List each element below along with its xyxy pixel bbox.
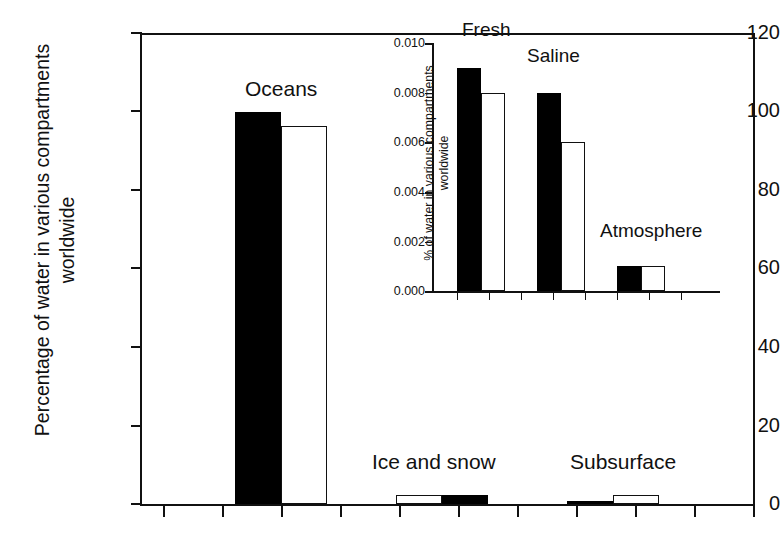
main-y-axis-label: Percentage of water in various compartme…	[30, 5, 80, 475]
inset-x-tick-1	[457, 293, 458, 300]
inset-x-tick-8	[681, 293, 682, 300]
main-x-tick-11	[753, 506, 755, 517]
main-y-tick-0	[131, 503, 142, 505]
main-x-tick-1	[163, 506, 165, 517]
main-x-axis-line	[140, 504, 755, 506]
main-x-tick-3	[281, 506, 283, 517]
inset-bar-atmosphere-filled	[617, 266, 641, 291]
inset-y-tick-0000	[425, 291, 433, 293]
inset-group-label-saline: Saline	[527, 45, 580, 66]
main-x-tick-8	[576, 506, 578, 517]
inset-x-tick-4	[553, 293, 554, 300]
inset-x-tick-5	[585, 293, 586, 300]
inset-group-label-atmosphere: Atmosphere	[600, 220, 702, 241]
main-y-tick-100	[131, 110, 142, 112]
group-label-subsurface: Subsurface	[570, 450, 676, 473]
bar-chart-figure: 120 100 80 60 40 20 0 Percentage of wate…	[0, 0, 780, 542]
inset-bar-saline-filled	[537, 93, 561, 291]
inset-x-tick-7	[649, 293, 650, 300]
main-x-tick-4	[340, 506, 342, 517]
inset-plot: 0.010 0.008 0.006 0.004 0.002 0.000 % of…	[432, 43, 720, 293]
inset-y-tick-label-0000: 0.000	[365, 285, 425, 298]
main-x-tick-2	[222, 506, 224, 517]
inset-y-axis-label: % of water in various compartments world…	[422, 38, 452, 288]
main-y-tick-label-40: 40	[734, 336, 780, 356]
main-y-tick-40	[131, 346, 142, 348]
group-label-oceans: Oceans	[245, 77, 317, 100]
inset-x-axis-line	[432, 291, 720, 293]
bar-subsurface-open	[613, 495, 659, 504]
main-y-tick-80	[131, 189, 142, 191]
main-x-tick-6	[458, 506, 460, 517]
bar-ice-and-snow-open	[396, 495, 442, 504]
inset-y-tick-label-0006: 0.006	[365, 136, 425, 149]
inset-group-label-fresh: Fresh	[462, 19, 511, 40]
inset-x-tick-3	[521, 293, 522, 300]
inset-bar-fresh-filled	[457, 68, 481, 291]
inset-bar-saline-open	[561, 142, 585, 291]
bar-ice-and-snow-filled	[442, 495, 488, 504]
bar-oceans-filled	[235, 112, 281, 504]
inset-x-tick-6	[617, 293, 618, 300]
bar-oceans-open	[281, 126, 327, 504]
main-y-tick-label-0: 0	[734, 493, 780, 513]
main-y-tick-label-80: 80	[734, 179, 780, 199]
main-y-tick-120	[131, 32, 142, 34]
main-y-tick-60	[131, 267, 142, 269]
main-y-tick-label-100: 100	[734, 100, 780, 120]
bar-subsurface-filled	[567, 501, 613, 504]
inset-bar-fresh-open	[481, 93, 505, 291]
inset-bar-atmosphere-open	[641, 266, 665, 291]
inset-y-tick-label-0004: 0.004	[365, 186, 425, 199]
main-x-tick-7	[517, 506, 519, 517]
main-y-tick-label-120: 120	[734, 22, 780, 42]
inset-y-tick-label-0010: 0.010	[365, 37, 425, 50]
inset-x-tick-2	[489, 293, 490, 300]
main-x-tick-9	[635, 506, 637, 517]
main-y-tick-label-60: 60	[734, 257, 780, 277]
group-label-ice-and-snow: Ice and snow	[372, 450, 496, 473]
inset-y-tick-label-0002: 0.002	[365, 236, 425, 249]
main-y-tick-20	[131, 425, 142, 427]
main-x-tick-5	[399, 506, 401, 517]
main-x-tick-10	[694, 506, 696, 517]
main-y-axis-line	[140, 33, 142, 506]
main-y-tick-label-20: 20	[734, 415, 780, 435]
inset-y-tick-label-0008: 0.008	[365, 87, 425, 100]
